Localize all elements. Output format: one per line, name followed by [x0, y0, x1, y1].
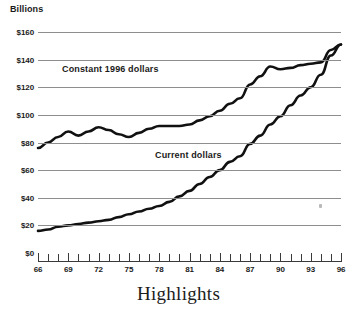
x-axis-tick-label: 66 — [34, 265, 43, 274]
x-axis-tick-label: 69 — [64, 265, 73, 274]
series-label-current-dollars: Current dollars — [155, 150, 222, 160]
y-axis-tick-label: $160 — [4, 28, 34, 37]
x-axis-minor-tick — [200, 254, 201, 262]
gridline — [38, 60, 341, 61]
x-axis-minor-tick — [210, 254, 211, 262]
x-axis-minor-tick — [321, 254, 322, 262]
x-axis-minor-tick — [291, 254, 292, 262]
x-axis-minor-tick — [270, 254, 271, 262]
x-axis-minor-tick — [331, 254, 332, 262]
x-axis-major-tick — [190, 253, 191, 262]
x-axis-minor-tick — [48, 254, 49, 262]
series-label-constant-1996-dollars: Constant 1996 dollars — [62, 64, 159, 74]
x-axis-minor-tick — [260, 254, 261, 262]
y-axis-tick-label: $20 — [4, 221, 34, 230]
x-axis-minor-tick — [149, 254, 150, 262]
y-axis-tick-label: $0 — [4, 249, 34, 258]
gridline — [38, 87, 341, 88]
x-axis-minor-tick — [169, 254, 170, 262]
y-axis-tick-label: $80 — [4, 138, 34, 147]
x-axis-major-tick — [250, 253, 251, 262]
x-axis-major-tick — [99, 253, 100, 262]
x-axis-minor-tick — [179, 254, 180, 262]
x-axis-minor-tick — [139, 254, 140, 262]
gridline — [38, 225, 341, 226]
y-axis-tick-label: $100 — [4, 110, 34, 119]
y-axis-tick-labels: $160$140$120$100$80$60$40$20$0 — [0, 0, 34, 319]
x-axis-tick-label: 96 — [337, 265, 346, 274]
x-axis-major-tick — [311, 253, 312, 262]
x-axis-tick-label: 93 — [306, 265, 315, 274]
x-axis-tick-label: 84 — [215, 265, 224, 274]
x-axis-tick-label: 78 — [155, 265, 164, 274]
image-speck-artifact — [319, 204, 322, 208]
x-axis-major-tick — [129, 253, 130, 262]
x-axis-minor-tick — [230, 254, 231, 262]
x-axis-minor-tick — [119, 254, 120, 262]
x-axis-tick-label: 81 — [185, 265, 194, 274]
x-axis-tick-label: 72 — [94, 265, 103, 274]
gridline — [38, 115, 341, 116]
x-axis-minor-tick — [89, 254, 90, 262]
x-axis-minor-tick — [301, 254, 302, 262]
y-axis-tick-label: $60 — [4, 166, 34, 175]
x-axis-minor-tick — [109, 254, 110, 262]
y-axis-tick-label: $120 — [4, 83, 34, 92]
gridline — [38, 32, 341, 33]
x-axis-major-tick — [341, 253, 342, 262]
gridline — [38, 170, 341, 171]
x-axis-tick-label: 75 — [125, 265, 134, 274]
gridline — [38, 143, 341, 144]
x-axis-major-tick — [220, 253, 221, 262]
line-chart: Billions $160$140$120$100$80$60$40$20$0 … — [0, 0, 357, 319]
x-axis-tick-labels: 6669727578818487909396 — [38, 265, 341, 279]
x-axis-minor-tick — [240, 254, 241, 262]
gridline — [38, 198, 341, 199]
x-axis — [38, 253, 341, 262]
x-axis-major-tick — [280, 253, 281, 262]
y-axis-tick-label: $140 — [4, 55, 34, 64]
x-axis-minor-tick — [78, 254, 79, 262]
x-axis-major-tick — [159, 253, 160, 262]
x-axis-major-tick — [38, 253, 39, 262]
x-axis-tick-label: 87 — [246, 265, 255, 274]
y-axis-tick-label: $40 — [4, 193, 34, 202]
x-axis-minor-tick — [58, 254, 59, 262]
figure-caption: Highlights — [0, 283, 357, 305]
x-axis-tick-label: 90 — [276, 265, 285, 274]
x-axis-major-tick — [68, 253, 69, 262]
